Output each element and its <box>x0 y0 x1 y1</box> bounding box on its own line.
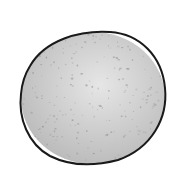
sphere-icon <box>20 31 169 165</box>
drawing-canvas <box>0 0 190 179</box>
sphere-illustration <box>0 0 190 179</box>
